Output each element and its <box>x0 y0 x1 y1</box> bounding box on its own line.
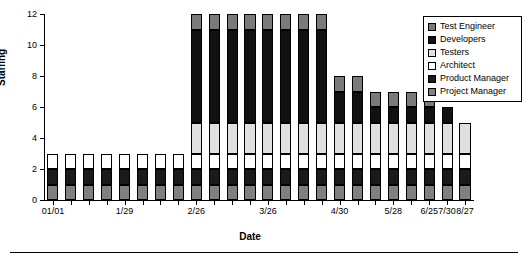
bar-segment[interactable] <box>459 169 470 185</box>
bar-column[interactable] <box>388 107 399 200</box>
bar-segment[interactable] <box>47 154 58 170</box>
bar-column[interactable] <box>280 30 291 201</box>
bar-segment[interactable] <box>209 14 220 30</box>
bar-segment[interactable] <box>406 185 417 201</box>
bar-segment[interactable] <box>83 169 94 185</box>
legend-item[interactable]: Testers <box>428 46 518 59</box>
bar-segment[interactable] <box>424 123 435 154</box>
bar-segment[interactable] <box>424 154 435 170</box>
bar-segment[interactable] <box>227 154 238 170</box>
bar-segment[interactable] <box>262 14 273 30</box>
legend-item[interactable]: Architect <box>428 59 518 72</box>
bar-segment[interactable] <box>119 154 130 170</box>
bar-segment[interactable] <box>370 185 381 201</box>
bar-column[interactable] <box>316 30 327 201</box>
bar-segment[interactable] <box>352 185 363 201</box>
bar-segment[interactable] <box>370 123 381 154</box>
bar-segment[interactable] <box>209 154 220 170</box>
bar-segment[interactable] <box>316 14 327 30</box>
bar-segment[interactable] <box>47 169 58 185</box>
bar-segment[interactable] <box>155 169 166 185</box>
bar-segment[interactable] <box>262 154 273 170</box>
bar-segment[interactable] <box>316 30 327 123</box>
bar-segment[interactable] <box>388 123 399 154</box>
bar-segment[interactable] <box>424 107 435 123</box>
bar-segment[interactable] <box>442 169 453 185</box>
bar-segment[interactable] <box>137 154 148 170</box>
legend-item[interactable]: Product Manager <box>428 72 518 85</box>
bar-segment[interactable] <box>406 123 417 154</box>
bar-segment[interactable] <box>173 169 184 185</box>
bar-segment[interactable] <box>406 154 417 170</box>
bar-column[interactable] <box>334 92 345 201</box>
bar-column[interactable] <box>424 107 435 200</box>
bar-segment[interactable] <box>388 154 399 170</box>
bar-segment[interactable] <box>316 185 327 201</box>
bar-column[interactable] <box>137 154 148 201</box>
bar-segment[interactable] <box>352 76 363 92</box>
bar-segment[interactable] <box>334 76 345 92</box>
bar-segment[interactable] <box>83 185 94 201</box>
bar-segment[interactable] <box>388 185 399 201</box>
bar-segment[interactable] <box>388 92 399 108</box>
bar-column[interactable] <box>442 123 453 201</box>
bar-segment[interactable] <box>262 185 273 201</box>
bar-column[interactable] <box>352 92 363 201</box>
bar-segment[interactable] <box>370 154 381 170</box>
bar-segment[interactable] <box>280 123 291 154</box>
bar-segment[interactable] <box>424 185 435 201</box>
bar-segment[interactable] <box>370 92 381 108</box>
bar-segment[interactable] <box>370 107 381 123</box>
bar-column[interactable] <box>244 30 255 201</box>
bar-segment[interactable] <box>119 185 130 201</box>
bar-segment[interactable] <box>209 185 220 201</box>
bar-segment[interactable] <box>191 123 202 154</box>
bar-segment[interactable] <box>191 185 202 201</box>
bar-column[interactable] <box>101 154 112 201</box>
bar-column[interactable] <box>370 107 381 200</box>
bar-segment[interactable] <box>227 30 238 123</box>
bar-segment[interactable] <box>298 123 309 154</box>
bar-segment[interactable] <box>352 123 363 154</box>
bar-segment[interactable] <box>65 154 76 170</box>
bar-segment[interactable] <box>244 185 255 201</box>
bar-segment[interactable] <box>388 107 399 123</box>
bar-segment[interactable] <box>352 92 363 123</box>
bar-segment[interactable] <box>406 92 417 108</box>
bar-segment[interactable] <box>227 123 238 154</box>
bar-column[interactable] <box>209 30 220 201</box>
bar-segment[interactable] <box>406 107 417 123</box>
bar-segment[interactable] <box>298 185 309 201</box>
bar-segment[interactable] <box>209 123 220 154</box>
bar-segment[interactable] <box>334 92 345 123</box>
bar-segment[interactable] <box>334 169 345 185</box>
legend-item[interactable]: Test Engineer <box>428 20 518 33</box>
bar-segment[interactable] <box>244 123 255 154</box>
bar-segment[interactable] <box>370 169 381 185</box>
bar-segment[interactable] <box>101 154 112 170</box>
bar-segment[interactable] <box>442 123 453 154</box>
bar-segment[interactable] <box>352 154 363 170</box>
bar-column[interactable] <box>262 30 273 201</box>
bar-segment[interactable] <box>262 123 273 154</box>
bar-segment[interactable] <box>101 185 112 201</box>
bar-segment[interactable] <box>280 30 291 123</box>
bar-segment[interactable] <box>227 169 238 185</box>
bar-segment[interactable] <box>298 169 309 185</box>
bar-segment[interactable] <box>316 169 327 185</box>
bar-segment[interactable] <box>83 154 94 170</box>
bar-segment[interactable] <box>244 169 255 185</box>
bar-column[interactable] <box>459 123 470 201</box>
bar-segment[interactable] <box>191 14 202 30</box>
bar-segment[interactable] <box>280 169 291 185</box>
bar-segment[interactable] <box>173 154 184 170</box>
bar-segment[interactable] <box>137 185 148 201</box>
bar-segment[interactable] <box>424 169 435 185</box>
bar-segment[interactable] <box>244 14 255 30</box>
bar-segment[interactable] <box>65 169 76 185</box>
bar-segment[interactable] <box>442 107 453 123</box>
bar-segment[interactable] <box>173 185 184 201</box>
bar-column[interactable] <box>227 30 238 201</box>
bar-segment[interactable] <box>459 185 470 201</box>
bar-segment[interactable] <box>209 169 220 185</box>
